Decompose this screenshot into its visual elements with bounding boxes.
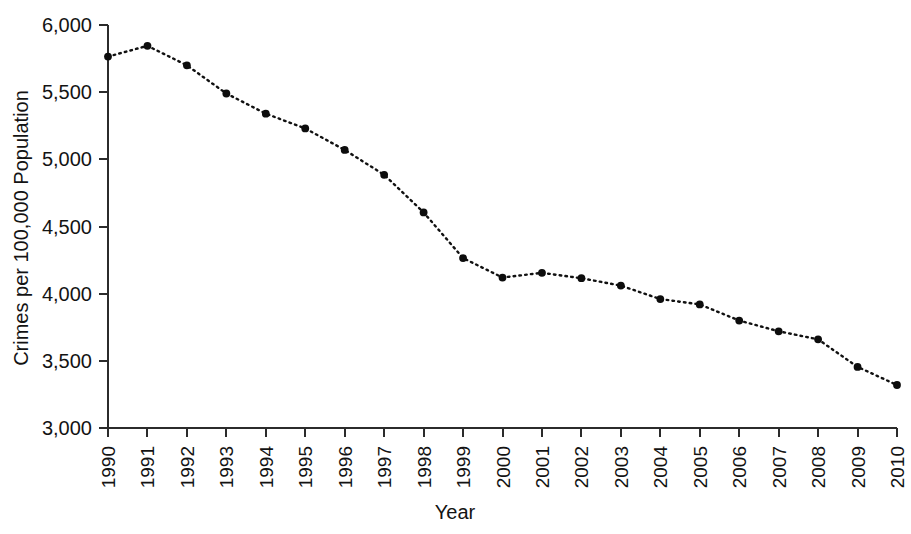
x-axis-tick-label: 2006 [729,446,750,488]
x-axis-tick-label: 1995 [295,446,316,488]
crime-rate-line-chart: 3,0003,5004,0004,5005,0005,5006,000 1990… [0,0,911,534]
x-axis-tick-label: 1998 [414,446,435,488]
x-axis-tick-label: 2009 [848,446,869,488]
x-axis-tick-label: 1990 [98,446,119,488]
x-axis-tick-label: 1992 [177,446,198,488]
x-axis-tick-label: 1997 [374,446,395,488]
x-axis-tick-label: 2004 [650,446,671,489]
x-axis-tick-label: 2003 [611,446,632,488]
y-axis-tick-label: 5,000 [42,148,92,170]
x-axis-tick-label: 2000 [493,446,514,488]
y-axis-tick-label: 3,000 [42,417,92,439]
x-axis-tick-label: 2008 [808,446,829,488]
x-axis-tick-label: 2007 [769,446,790,488]
x-axis-tick-label: 1993 [216,446,237,488]
x-axis-tick-label: 2010 [887,446,908,488]
chart-canvas: 3,0003,5004,0004,5005,0005,5006,000 1990… [0,0,911,534]
y-axis-tick-label: 4,500 [42,216,92,238]
y-axis-tick-label: 6,000 [42,14,92,36]
x-axis-tick-label: 2002 [571,446,592,488]
y-axis-tick-label: 3,500 [42,350,92,372]
x-axis-tick-label: 1999 [453,446,474,488]
x-axis-tick-label: 1996 [335,446,356,488]
y-axis-tick-label: 5,500 [42,81,92,103]
x-axis-tick-label: 1991 [137,446,158,488]
y-axis-tick-label: 4,000 [42,283,92,305]
x-axis-tick-label: 1994 [256,446,277,489]
x-axis-tick-label: 2005 [690,446,711,488]
y-axis-title: Crimes per 100,000 Population [10,90,32,366]
x-axis-title: Year [435,501,476,523]
x-axis-tick-label: 2001 [532,446,553,488]
